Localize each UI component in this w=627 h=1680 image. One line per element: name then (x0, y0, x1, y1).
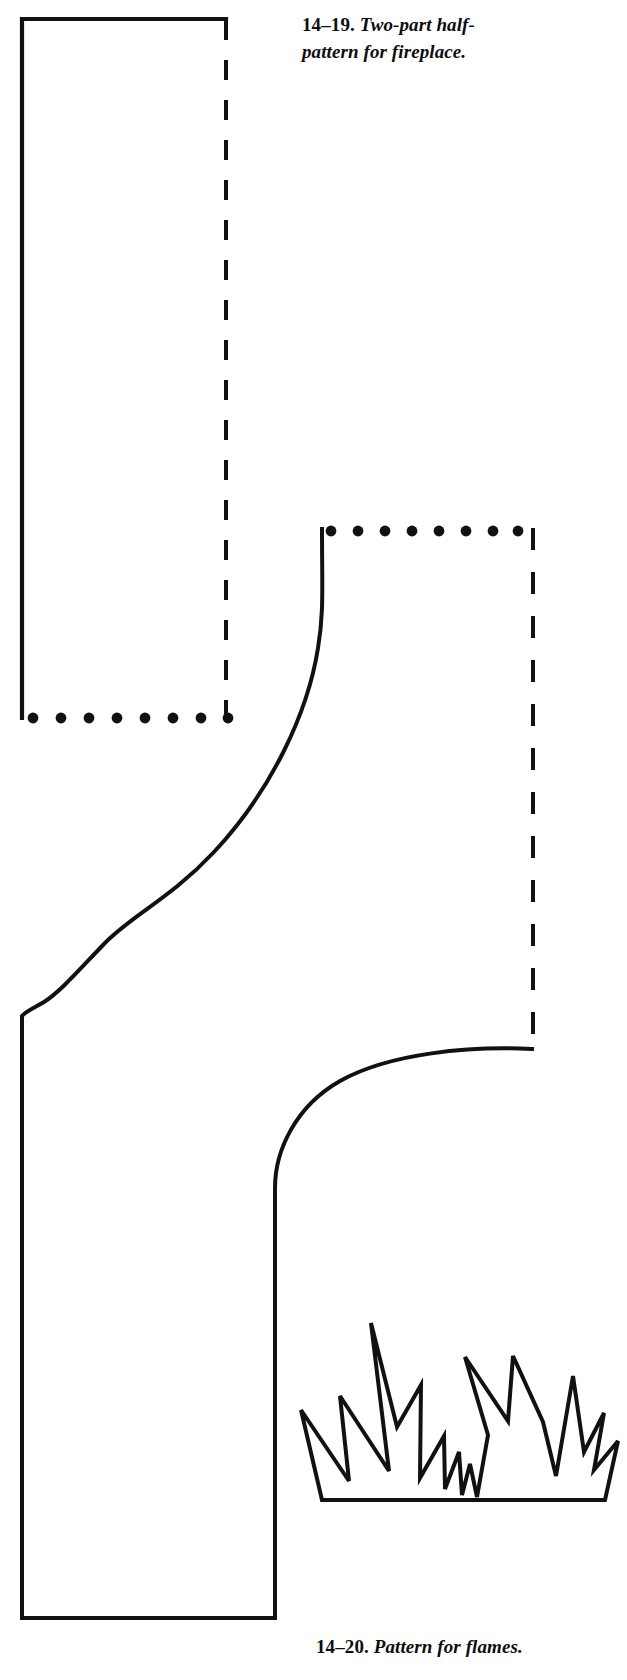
flames-outline-shape (301, 1323, 618, 1500)
flames-pattern-group (301, 1323, 618, 1500)
fireplace-pattern-group (22, 19, 533, 1618)
fireplace-outline-curve (22, 529, 532, 1618)
caption-flames-number: 14–20. (316, 1636, 369, 1657)
caption-flames: 14–20. Pattern for flames. (316, 1634, 616, 1661)
pattern-drawing (0, 0, 627, 1680)
upper-panel-dotted-join-line (28, 713, 234, 724)
caption-fireplace: 14–19. Two-part half-pattern for firepla… (302, 12, 517, 66)
caption-fireplace-number: 14–19. (302, 14, 355, 35)
figure-page: 14–19. Two-part half-pattern for firepla… (0, 0, 627, 1680)
upper-panel-solid-edge (22, 19, 226, 718)
caption-flames-text: Pattern for flames. (374, 1636, 523, 1657)
lower-panel-dotted-join-line (326, 526, 524, 537)
